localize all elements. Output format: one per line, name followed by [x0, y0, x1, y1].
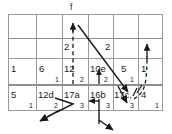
cell-bottom-2-corner: 2: [54, 102, 58, 109]
cell-bottom-6-main: 4: [141, 90, 146, 100]
function-label-f: f: [70, 3, 72, 12]
cell-middle-2-main: 6: [39, 64, 44, 74]
cell-bottom-1-corner: 1: [29, 102, 33, 109]
cell-middle-5-main: 5: [121, 64, 126, 74]
arrow-label-left: 2: [64, 42, 69, 52]
cell-bottom-2-main: 12d: [38, 90, 54, 100]
diagram-canvas: f 2 2 1 6 1 12 2 10e 2 5 1 1 5 1 12d 2 1…: [0, 0, 172, 134]
cell-bottom-5-main: 17c,: [114, 90, 132, 100]
cell-middle-4-main: 10e: [90, 64, 106, 74]
grid-lines-strong: [8, 39, 163, 86]
cell-bottom-4-main: 16b: [90, 90, 106, 100]
cell-middle-3-corner: 2: [80, 76, 84, 83]
cell-middle-6-main: 1: [141, 64, 146, 74]
cell-bottom-4-corner: 3: [106, 102, 110, 109]
cell-bottom-1-main: 5: [11, 90, 16, 100]
cell-bottom-3-main: 17a: [64, 90, 80, 100]
grid-lines: [8, 14, 163, 111]
cell-bottom-5-corner: 3: [130, 102, 134, 109]
cell-bottom-6-corner: 1: [155, 102, 159, 109]
cell-middle-4-corner: 2: [104, 76, 108, 83]
cell-bottom-3-corner: 3: [80, 102, 84, 109]
cell-middle-1-main: 1: [11, 64, 16, 74]
cell-middle-3-main: 12: [64, 64, 75, 74]
cell-middle-5-corner: 1: [130, 76, 134, 83]
arrow-label-right: 2: [105, 42, 110, 52]
cell-middle-2-corner: 1: [55, 76, 59, 83]
